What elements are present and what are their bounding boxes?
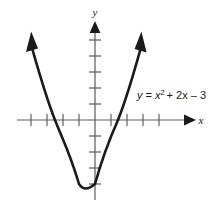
equation-term2: + 2x [167,89,189,101]
x-axis-arrowhead [184,115,196,126]
equation-term3: – 3 [191,89,206,101]
equation-text: y=x2+ 2x– 3 [136,88,206,101]
parabola-curve-group [26,32,147,189]
x-axis-label: x [198,114,204,126]
parabola-left-arrowhead [26,32,38,53]
figure-root: x y y=x2+ 2x– 3 [0,0,218,206]
parabola-curve [32,49,140,188]
parabola-right-arrowhead [135,32,147,53]
equation-term1-exponent: 2 [160,88,164,97]
equation-lhs: y [136,89,144,101]
y-axis-label: y [92,6,98,18]
axes-group: x y [17,6,204,200]
equation-annotation: y=x2+ 2x– 3 [136,88,206,101]
equation-equals: = [146,89,152,101]
y-axis-arrowhead [90,21,101,33]
coordinate-graph: x y y=x2+ 2x– 3 [0,0,218,206]
